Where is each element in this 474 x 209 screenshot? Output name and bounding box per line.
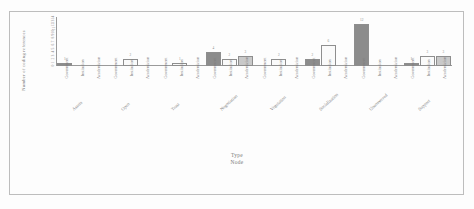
x-tick-label: Government: [205, 68, 221, 108]
x-tick-label: Academician: [138, 68, 154, 108]
x-axis-title-node: Node: [0, 159, 474, 166]
x-axis-type-labels: GovernmentInstitutionAcademicianGovernme…: [56, 68, 452, 108]
x-tick-label: Government: [156, 68, 172, 108]
bar-value-label: 12: [354, 19, 370, 22]
x-tick-group: GovernmentInstitutionAcademician: [106, 68, 156, 108]
bar-value-label: 2: [221, 54, 237, 57]
y-axis-tick-labels: 01234567891011121314: [42, 16, 55, 66]
x-tick-label: Government: [255, 68, 271, 108]
chart-screenshot: Number of coding references 012345678910…: [0, 0, 474, 209]
x-tick-label: Academician: [287, 68, 303, 108]
x-axis-title-type: Type: [0, 152, 474, 159]
bar-value-label: 3: [435, 51, 451, 54]
x-tick-label: Government: [403, 68, 419, 108]
x-tick-label: Institution: [172, 68, 188, 108]
x-tick-label: Academician: [435, 68, 451, 108]
y-axis-title: Number of coding references: [21, 6, 26, 116]
x-tick-label: Academician: [336, 68, 352, 108]
bar-value-label: 6: [320, 40, 336, 43]
x-tick-label: Government: [304, 68, 320, 108]
x-tick-label: Government: [106, 68, 122, 108]
bar-value-label: 4: [205, 47, 221, 50]
x-tick-label: Academician: [89, 68, 105, 108]
x-tick-label: Government: [354, 68, 370, 108]
bar-value-label: 3: [419, 51, 435, 54]
x-axis-node-labels: AssetsOpenTrustNegotiationVegetationSoci…: [56, 108, 452, 148]
x-tick-label: Government: [57, 68, 73, 108]
x-tick-group: GovernmentInstitutionAcademician: [155, 68, 205, 108]
x-tick-label: Academician: [188, 68, 204, 108]
bar-value-label: 2: [122, 54, 138, 57]
bar-value-label: 2: [271, 54, 287, 57]
x-tick-label: Academician: [386, 68, 402, 108]
x-axis-titles: Type Node: [0, 152, 474, 166]
bar-value-label: 3: [237, 51, 253, 54]
x-tick-label: Academician: [237, 68, 253, 108]
